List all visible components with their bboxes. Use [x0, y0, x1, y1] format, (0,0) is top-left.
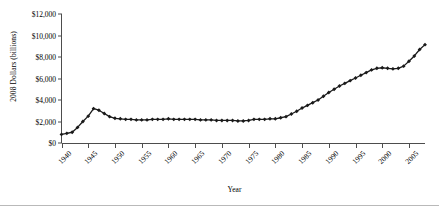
- data-point-marker: [252, 117, 256, 121]
- data-point-marker: [118, 117, 122, 121]
- data-point-marker: [60, 132, 64, 136]
- data-point-marker: [140, 118, 144, 122]
- data-point-marker: [113, 116, 117, 120]
- data-point-marker: [129, 117, 133, 121]
- footer-divider: [0, 205, 439, 206]
- data-point-marker: [380, 66, 384, 70]
- data-point-marker: [386, 66, 390, 70]
- data-point-marker: [231, 118, 235, 122]
- data-point-marker: [156, 117, 160, 121]
- data-point-marker: [204, 118, 208, 122]
- data-point-marker: [172, 117, 176, 121]
- data-point-marker: [375, 66, 379, 70]
- data-point-marker: [279, 116, 283, 120]
- data-point-marker: [193, 117, 197, 121]
- data-series-plot: [0, 0, 439, 210]
- data-point-marker: [150, 117, 154, 121]
- data-point-marker: [161, 117, 165, 121]
- data-point-marker: [236, 119, 240, 123]
- data-point-marker: [65, 131, 69, 135]
- data-point-marker: [257, 117, 261, 121]
- data-point-marker: [134, 118, 138, 122]
- data-point-marker: [145, 118, 149, 122]
- data-point-marker: [391, 67, 395, 71]
- data-point-marker: [166, 117, 170, 121]
- data-point-marker: [199, 118, 203, 122]
- data-point-marker: [225, 118, 229, 122]
- data-point-marker: [183, 117, 187, 121]
- data-point-marker: [273, 117, 277, 121]
- data-point-marker: [268, 117, 272, 121]
- data-point-marker: [241, 119, 245, 123]
- data-point-marker: [124, 117, 128, 121]
- data-point-marker: [247, 118, 251, 122]
- data-point-marker: [396, 66, 400, 70]
- data-point-marker: [220, 118, 224, 122]
- chart-container: 2008 Dollars (billions) $12,000$10,000$8…: [0, 0, 439, 210]
- data-point-marker: [215, 118, 219, 122]
- data-point-marker: [177, 117, 181, 121]
- data-point-marker: [209, 118, 213, 122]
- data-point-marker: [188, 117, 192, 121]
- data-point-marker: [263, 117, 267, 121]
